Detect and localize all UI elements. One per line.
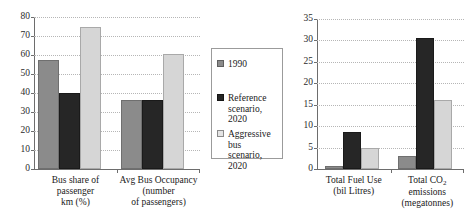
bar <box>325 166 343 169</box>
legend-label-aggressive: Aggressive bus scenario, 2020 <box>228 129 282 171</box>
figure-root: 01020304050607080Bus share ofpassengerkm… <box>0 0 474 217</box>
y-tick-mark <box>31 74 34 75</box>
bar <box>80 27 101 170</box>
y-tick-mark <box>31 17 34 18</box>
y-tick-mark <box>314 126 317 127</box>
legend-item-2: Aggressive bus scenario, 2020 <box>217 129 282 171</box>
y-tick-mark <box>314 169 317 170</box>
right-plot-area: 05101520253035Total Fuel Use(bil Litres)… <box>317 19 464 170</box>
left-plot-area: 01020304050607080Bus share ofpassengerkm… <box>34 17 200 170</box>
bar <box>121 100 142 169</box>
gridline <box>34 17 200 18</box>
y-tick-mark <box>31 150 34 151</box>
y-tick-mark <box>314 62 317 63</box>
y-tick-mark <box>31 93 34 94</box>
y-tick-mark <box>314 105 317 106</box>
bar <box>361 148 379 169</box>
legend-label-reference: Reference scenario, 2020 <box>228 93 282 125</box>
legend-box: 1990 Reference scenario, 2020 Aggressive… <box>211 48 283 159</box>
chart-fuel-co2: 05101520253035Total Fuel Use(bil Litres)… <box>290 0 474 217</box>
legend-label-1990: 1990 <box>228 59 247 70</box>
y-tick-mark <box>31 131 34 132</box>
y-tick-mark <box>31 112 34 113</box>
bar <box>343 132 361 169</box>
y-tick-mark <box>314 40 317 41</box>
y-tick-mark <box>31 36 34 37</box>
bar <box>38 60 59 169</box>
x-tick-mark <box>199 170 200 173</box>
x-tick-mark <box>463 170 464 173</box>
legend-item-0: 1990 <box>217 59 247 70</box>
bar <box>142 100 163 169</box>
x-category-label: Bus share ofpassengerkm (%) <box>28 175 123 208</box>
y-tick-mark <box>31 55 34 56</box>
x-category-label: Total CO2emissions(megatonnes) <box>383 175 473 209</box>
bar <box>398 156 416 169</box>
bar <box>416 38 434 169</box>
gridline <box>317 62 464 63</box>
legend-swatch-1990 <box>217 60 224 67</box>
x-category-label: Avg Bus Occupancy(numberof passengers) <box>111 175 206 208</box>
bar <box>163 54 184 169</box>
legend-item-1: Reference scenario, 2020 <box>217 93 282 125</box>
y-tick-mark <box>314 83 317 84</box>
bar <box>59 93 80 169</box>
gridline <box>34 36 200 37</box>
y-tick-mark <box>314 19 317 20</box>
legend-swatch-reference <box>217 94 224 101</box>
legend-swatch-aggressive <box>217 130 224 137</box>
chart-bus-indicators: 01020304050607080Bus share ofpassengerkm… <box>0 0 211 217</box>
gridline <box>317 19 464 20</box>
gridline <box>317 83 464 84</box>
gridline <box>317 40 464 41</box>
bar <box>434 100 452 169</box>
x-tick-mark <box>391 170 392 173</box>
y-tick-mark <box>31 169 34 170</box>
x-tick-mark <box>117 170 118 173</box>
y-tick-mark <box>314 148 317 149</box>
